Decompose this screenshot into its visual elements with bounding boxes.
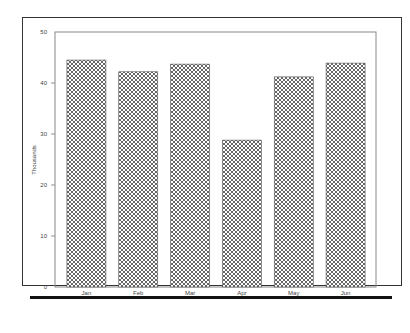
x-tick-label: Mar bbox=[185, 290, 195, 296]
x-tick-label: Feb bbox=[133, 290, 144, 296]
y-axis: 01020304050 bbox=[40, 29, 55, 290]
y-tick-label: 40 bbox=[40, 80, 47, 86]
y-tick-label: 0 bbox=[44, 284, 48, 290]
x-axis: JanFebMarAprMayJun bbox=[82, 290, 351, 296]
bar-may bbox=[274, 77, 313, 287]
x-tick-label: Apr bbox=[237, 290, 246, 296]
bars bbox=[67, 60, 365, 287]
bar-mar bbox=[171, 64, 210, 287]
bar-feb bbox=[119, 72, 158, 287]
bar-chart: 01020304050 JanFebMarAprMayJun Thousands bbox=[0, 0, 410, 333]
y-axis-title: Thousands bbox=[31, 145, 37, 175]
bar-jun bbox=[326, 63, 365, 287]
bar-jan bbox=[67, 60, 106, 287]
y-tick-label: 30 bbox=[40, 131, 47, 137]
x-tick-label: May bbox=[288, 290, 299, 296]
y-tick-label: 50 bbox=[40, 29, 47, 35]
bar-apr bbox=[222, 140, 261, 287]
bottom-rule bbox=[30, 296, 392, 299]
y-tick-label: 20 bbox=[40, 182, 47, 188]
y-tick-label: 10 bbox=[40, 233, 47, 239]
x-tick-label: Jun bbox=[341, 290, 351, 296]
x-tick-label: Jan bbox=[82, 290, 92, 296]
